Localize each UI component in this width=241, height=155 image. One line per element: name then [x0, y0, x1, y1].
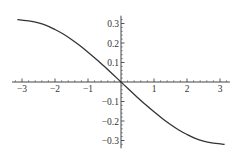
y-tick-label: −0.1: [102, 97, 119, 107]
x-tick-label: −3: [17, 84, 27, 94]
y-tick-label: −0.3: [102, 136, 119, 146]
x-tick-label: 1: [152, 84, 157, 94]
x-tick-label: 3: [218, 84, 223, 94]
y-tick-label: −0.2: [102, 117, 119, 127]
line-chart: −3−2−11230.30.20.1−0.1−0.2−0.3: [0, 0, 241, 155]
x-tick-label: −2: [50, 84, 60, 94]
y-tick-label: 0.2: [107, 39, 119, 49]
x-tick-label: 2: [185, 84, 190, 94]
y-tick-label: 0.3: [107, 19, 119, 29]
x-tick-label: −1: [83, 84, 93, 94]
y-tick-label: 0.1: [107, 58, 119, 68]
